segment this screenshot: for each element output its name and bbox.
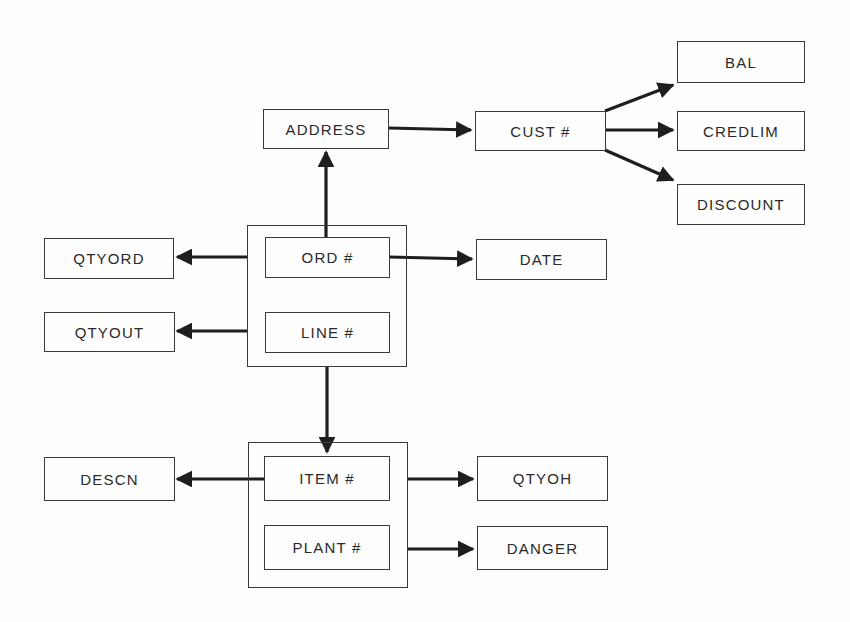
connector-layer	[0, 0, 850, 622]
field-label: QTYOH	[513, 470, 572, 487]
arrow-address-to-cust	[389, 128, 471, 130]
field-discount: DISCOUNT	[677, 184, 805, 225]
field-cust-no: CUST #	[475, 111, 606, 151]
field-line-no: LINE #	[265, 312, 390, 353]
arrow-cust-to-bal	[605, 85, 673, 111]
dependency-diagram: ADDRESS CUST # BAL CREDLIM DISCOUNT QTYO…	[0, 0, 850, 622]
field-label: ITEM #	[299, 470, 355, 487]
field-label: CREDLIM	[703, 123, 779, 140]
field-label: LINE #	[301, 324, 354, 341]
field-label: DISCOUNT	[697, 196, 785, 213]
field-descn: DESCN	[44, 457, 175, 501]
field-credlim: CREDLIM	[677, 111, 805, 151]
field-label: DANGER	[507, 540, 578, 557]
arrow-cust-to-discount	[605, 150, 673, 180]
field-qtyoh: QTYOH	[477, 456, 608, 501]
field-label: CUST #	[510, 123, 570, 140]
field-label: DATE	[520, 251, 564, 268]
field-label: DESCN	[80, 471, 139, 488]
field-item-no: ITEM #	[264, 456, 390, 501]
field-label: QTYORD	[73, 250, 144, 267]
field-qtyord: QTYORD	[44, 238, 174, 279]
field-label: BAL	[725, 54, 757, 71]
field-date: DATE	[476, 239, 607, 280]
field-danger: DANGER	[477, 526, 608, 570]
field-label: ADDRESS	[286, 121, 367, 138]
field-qtyout: QTYOUT	[44, 312, 175, 352]
field-label: QTYOUT	[75, 324, 145, 341]
field-ord-no: ORD #	[265, 237, 390, 278]
field-address: ADDRESS	[263, 109, 389, 149]
field-label: ORD #	[302, 249, 354, 266]
field-label: PLANT #	[293, 539, 362, 556]
field-bal: BAL	[677, 41, 805, 83]
field-plant-no: PLANT #	[264, 525, 390, 570]
